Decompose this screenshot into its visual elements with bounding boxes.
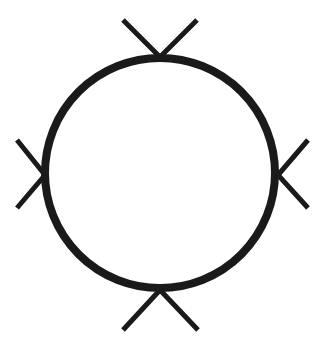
tick-right	[278, 140, 308, 208]
circle-shape	[45, 58, 275, 288]
tick-top	[123, 20, 197, 57]
tick-bottom	[123, 290, 198, 330]
tick-left	[17, 140, 45, 208]
diagram-canvas	[0, 0, 325, 347]
